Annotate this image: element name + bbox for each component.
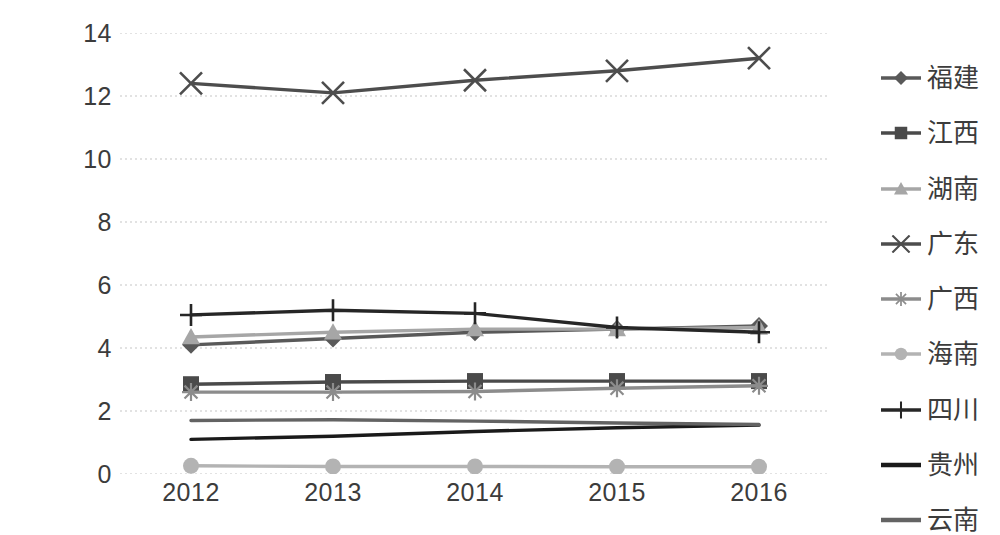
series-7 [191,425,759,439]
series-8 [191,420,759,425]
marker-asterisk [182,383,200,401]
legend-swatch-icon [880,235,922,253]
series-line [191,420,759,425]
y-tick-label: 4 [98,334,112,363]
marker-square [895,127,907,139]
y-tick-label: 14 [83,19,112,48]
legend-item[interactable]: 海南 [880,341,979,367]
y-tick-label: 12 [83,82,112,111]
legend-label: 四川 [927,397,979,423]
series-5 [183,458,767,474]
legend-swatch-icon [880,69,922,87]
marker-plus [464,302,486,324]
y-tick-label: 6 [98,271,112,300]
y-tick-label: 8 [98,208,112,237]
marker-circle [895,348,907,360]
legend-item[interactable]: 广东 [880,231,979,257]
marker-asterisk [750,377,768,395]
legend-swatch-icon [880,124,922,142]
marker-asterisk [466,382,484,400]
legend-swatch-icon [880,401,922,419]
chart-legend: 福建江西湖南广东广西海南四川贵州云南 [880,33,1000,527]
legend-item[interactable]: 湖南 [880,176,979,202]
marker-asterisk [324,383,342,401]
x-tick-label: 2015 [588,478,646,507]
marker-asterisk [894,292,908,306]
x-tick-label: 2014 [446,478,504,507]
marker-circle [467,458,483,474]
marker-diamond [894,71,908,85]
marker-plus [322,299,344,321]
legend-label: 云南 [927,507,979,533]
legend-item[interactable]: 江西 [880,120,979,146]
plot-area [120,33,830,474]
legend-item[interactable]: 福建 [880,65,979,91]
x-tick-label: 2013 [304,478,362,507]
legend-swatch-icon [880,456,922,474]
marker-circle [183,458,199,474]
x-axis: 20122013201420152016 [120,478,830,518]
y-tick-label: 10 [83,145,112,174]
legend-swatch-icon [880,180,922,198]
series-3 [180,47,770,104]
series-line [191,425,759,439]
legend-item[interactable]: 广西 [880,286,979,312]
legend-label: 江西 [927,120,979,146]
legend-label: 海南 [927,341,979,367]
legend-swatch-icon [880,290,922,308]
legend-label: 广东 [927,231,979,257]
marker-plus [892,401,909,418]
legend-label: 广西 [927,286,979,312]
marker-circle [751,459,767,474]
legend-swatch-icon [880,345,922,363]
legend-label: 福建 [927,65,979,91]
legend-item[interactable]: 贵州 [880,452,979,478]
marker-circle [325,458,341,474]
x-tick-label: 2016 [730,478,788,507]
legend-label: 湖南 [927,176,979,202]
marker-plus [180,304,202,326]
series-layer [120,33,830,474]
marker-asterisk [608,379,626,397]
legend-item[interactable]: 四川 [880,397,979,423]
y-tick-label: 2 [98,397,112,426]
series-line [191,58,759,93]
y-axis: 02468101214 [40,33,112,474]
marker-circle [609,459,625,474]
legend-label: 贵州 [927,452,979,478]
legend-swatch-icon [880,511,922,529]
y-tick-label: 0 [98,460,112,489]
legend-item[interactable]: 云南 [880,507,979,533]
x-tick-label: 2012 [162,478,220,507]
